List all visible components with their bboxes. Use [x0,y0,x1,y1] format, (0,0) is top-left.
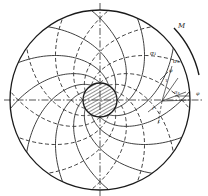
phi-label-a: φ [169,67,173,74]
phi-label-b: φ [196,90,200,97]
sigma1-label-b: σ₁ [173,57,180,64]
hatched-hole [83,83,117,117]
stress-element-detail [148,66,190,124]
slip-line [92,115,185,145]
sigma3-label: σ₃ [174,89,179,95]
slip-line [115,15,145,108]
moment-arrow-arc [174,28,199,75]
t-label: t [158,118,161,124]
slip-line [15,56,108,86]
sigma1-label-a: σ₁ [150,49,157,56]
slip-line [56,92,86,185]
r-label: r [152,105,155,111]
slip-line-diagram: M σ₁ σ₁ φ τ σ₃ φ r t [0,0,208,196]
moment-label: M [177,22,186,30]
tau-label: τ [165,77,168,83]
